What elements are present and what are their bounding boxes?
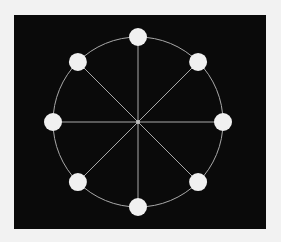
node-n-bottom-left [69,173,87,191]
node-n-left [44,113,62,131]
node-n-bottom [129,198,147,216]
center-hub [136,120,140,124]
node-n-top-left [69,53,87,71]
radial-diagram [0,0,281,242]
node-n-bottom-right [189,173,207,191]
node-n-top [129,28,147,46]
node-n-top-right [189,53,207,71]
node-n-right [214,113,232,131]
